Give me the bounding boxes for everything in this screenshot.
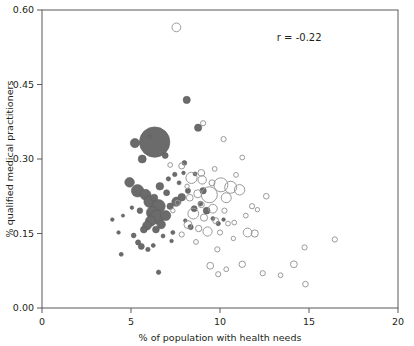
plot-frame	[42, 10, 398, 308]
correlation-annotation: r = -0.22	[277, 32, 322, 43]
x-axis-title: % of population with health needs	[139, 332, 302, 343]
data-point-filled	[140, 226, 147, 233]
data-point-filled	[119, 252, 123, 256]
data-point-filled	[111, 218, 115, 222]
x-tick-label: 5	[128, 316, 134, 327]
y-tick-label: 0.30	[13, 153, 34, 164]
data-point-filled	[117, 231, 121, 235]
data-point-filled	[146, 247, 150, 251]
data-point-filled	[166, 177, 170, 181]
data-point-filled	[222, 218, 226, 222]
data-point-filled	[161, 211, 171, 221]
data-point-filled	[185, 188, 190, 193]
data-point-filled	[177, 181, 181, 185]
data-point-filled	[130, 139, 139, 148]
data-point-filled	[178, 193, 186, 201]
x-tick-label: 0	[39, 316, 45, 327]
data-point-filled	[121, 214, 124, 217]
data-point-filled	[138, 243, 144, 249]
data-point-filled	[130, 206, 134, 210]
data-point-filled	[183, 96, 190, 103]
data-point-filled	[138, 155, 146, 163]
data-point-filled	[173, 172, 177, 176]
y-tick-label: 0.60	[13, 4, 34, 15]
x-tick-label: 10	[214, 316, 226, 327]
data-point-filled	[153, 226, 160, 233]
x-tick-label: 20	[392, 316, 404, 327]
data-point-filled	[131, 233, 136, 238]
data-point-filled	[170, 239, 174, 243]
x-tick-label: 15	[303, 316, 315, 327]
data-point-filled	[137, 208, 143, 214]
x-axis-ticks: 05101520	[39, 308, 404, 327]
data-point-filled	[151, 243, 155, 247]
bubble-scatter-figure: 0.000.150.300.450.60 05101520 r = -0.22 …	[0, 0, 414, 346]
y-axis-ticks: 0.000.150.300.450.60	[13, 4, 42, 313]
plot-area	[42, 10, 398, 308]
data-point-filled	[171, 231, 175, 235]
y-tick-label: 0.15	[13, 228, 34, 239]
chart-canvas: 0.000.150.300.450.60 05101520 r = -0.22 …	[0, 0, 414, 346]
data-point-filled	[182, 171, 186, 175]
data-point-filled	[148, 135, 152, 139]
data-point-filled	[156, 183, 164, 191]
data-point-filled	[125, 178, 135, 188]
data-point-filled	[164, 190, 170, 196]
data-point-filled	[156, 270, 160, 274]
data-point-filled	[162, 153, 168, 159]
data-point-filled	[195, 124, 202, 131]
data-point-filled	[161, 234, 165, 238]
y-tick-label: 0.00	[13, 302, 34, 313]
y-axis-title: % qualified medical practitioners	[4, 81, 15, 238]
y-tick-label: 0.45	[13, 79, 34, 90]
